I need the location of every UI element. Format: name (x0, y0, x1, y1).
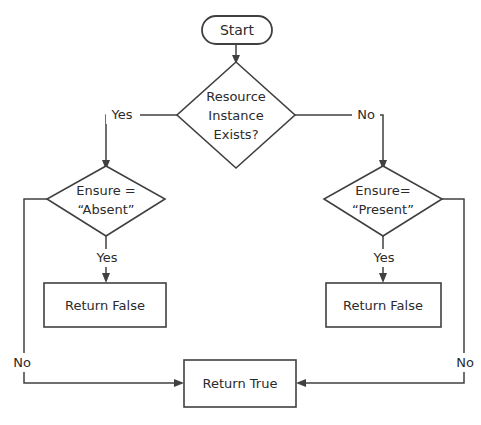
edge-label-right-no: No (456, 355, 474, 370)
flowchart-canvas: Start Resource Instance Exists? Ensure =… (0, 0, 481, 425)
node-start[interactable]: Start (202, 16, 272, 44)
node-decision-resource-instance-exists[interactable]: Resource Instance Exists? (177, 62, 295, 168)
decision-main-line2: Instance (208, 108, 263, 123)
return-false-right-label: Return False (343, 298, 423, 313)
edge-label-left-no: No (13, 355, 31, 370)
edge-label-right-yes: Yes (373, 250, 395, 265)
arrow-head-icon (296, 379, 306, 387)
decision-left-line2: “Absent” (77, 202, 134, 217)
flowchart-svg: Start Resource Instance Exists? Ensure =… (0, 0, 481, 425)
node-decision-ensure-present[interactable]: Ensure= “Present” (324, 166, 442, 236)
arrow-head-icon (379, 273, 387, 283)
node-return-false-right[interactable]: Return False (326, 283, 441, 327)
decision-right-line2: “Present” (352, 202, 414, 217)
decision-main-line1: Resource (206, 89, 266, 104)
decision-main-line3: Exists? (213, 127, 258, 142)
node-decision-ensure-absent[interactable]: Ensure = “Absent” (47, 166, 165, 236)
node-return-true[interactable]: Return True (184, 360, 296, 407)
decision-left-line1: Ensure = (76, 183, 136, 198)
return-false-left-label: Return False (65, 298, 145, 313)
start-label: Start (220, 22, 255, 38)
arrow-head-icon (102, 273, 110, 283)
edge-label-main-no: No (357, 107, 375, 122)
arrow-head-icon (174, 379, 184, 387)
edge-label-left-yes: Yes (96, 250, 118, 265)
node-return-false-left[interactable]: Return False (44, 283, 166, 327)
decision-right-line1: Ensure= (355, 183, 410, 198)
edge-label-main-yes: Yes (111, 107, 133, 122)
return-true-label: Return True (203, 376, 278, 391)
